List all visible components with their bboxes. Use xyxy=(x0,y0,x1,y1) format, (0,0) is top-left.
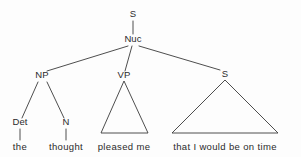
triangle-vp-pleased-me xyxy=(101,81,148,133)
tree-edges xyxy=(20,21,220,140)
edge-nuc-to-vp xyxy=(125,46,132,71)
tree-triangles xyxy=(101,80,278,133)
leaf-the: the xyxy=(13,141,27,152)
node-det: Det xyxy=(12,116,27,127)
triangle-s-that-clause xyxy=(172,80,278,133)
edge-nuc-to-np xyxy=(47,46,128,71)
node-nuc: Nuc xyxy=(124,33,141,44)
syntax-tree-figure: S Nuc NP VP S Det N the thought pleased … xyxy=(0,0,301,157)
edge-nuc-to-embedded-s xyxy=(139,46,220,70)
leaf-that-clause: that I would be on time xyxy=(173,141,277,152)
edge-np-to-n xyxy=(47,82,64,118)
leaf-pleased-me: pleased me xyxy=(98,141,151,152)
edge-np-to-det xyxy=(22,82,38,118)
tree-canvas: S Nuc NP VP S Det N the thought pleased … xyxy=(0,0,301,157)
node-n: N xyxy=(63,116,70,127)
node-root-s: S xyxy=(130,8,136,19)
node-vp: VP xyxy=(118,69,131,80)
leaf-thought: thought xyxy=(49,141,83,152)
tree-leaf-labels: the thought pleased me that I would be o… xyxy=(13,141,277,152)
node-np: NP xyxy=(35,69,48,80)
node-embedded-s: S xyxy=(222,68,228,79)
